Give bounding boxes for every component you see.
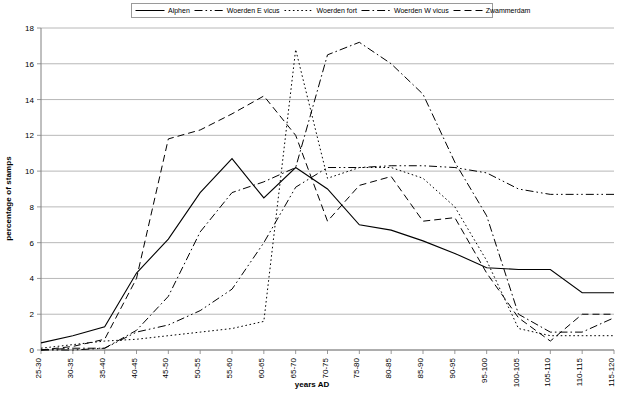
x-tick-label: 50-55 <box>193 357 202 378</box>
x-tick-label: 55-60 <box>225 357 234 378</box>
x-tick-label: 30-35 <box>66 357 75 378</box>
x-tick-label: 90-95 <box>448 357 457 378</box>
x-tick-label: 65-70 <box>289 357 298 378</box>
y-tick-label: 8 <box>30 203 35 212</box>
y-tick-label: 12 <box>25 131 34 140</box>
x-tick-label: 75-80 <box>352 357 361 378</box>
y-tick-label: 0 <box>30 346 35 355</box>
x-axis-title: years AD <box>0 380 624 389</box>
x-tick-label: 25-30 <box>34 357 43 378</box>
x-tick-label: 80-85 <box>384 357 393 378</box>
x-tick-label: 35-40 <box>98 357 107 378</box>
x-tick-label: 40-45 <box>130 357 139 378</box>
y-tick-label: 16 <box>25 60 34 69</box>
y-tick-label: 10 <box>25 167 34 176</box>
x-tick-label: 70-75 <box>321 357 330 378</box>
y-tick-label: 2 <box>30 310 35 319</box>
y-tick-label: 6 <box>30 239 35 248</box>
chart-container: AlphenWoerden E vicusWoerden fortWoerden… <box>0 0 624 396</box>
x-tick-label: 45-50 <box>161 357 170 378</box>
y-tick-label: 18 <box>25 24 34 33</box>
y-tick-label: 14 <box>25 96 34 105</box>
y-tick-label: 4 <box>30 274 35 283</box>
plot-area: 02468101214161825-3030-3535-4040-4545-50… <box>0 0 624 396</box>
x-tick-label: 85-90 <box>416 357 425 378</box>
x-tick-label: 60-65 <box>257 357 266 378</box>
plot-svg: 02468101214161825-3030-3535-4040-4545-50… <box>0 0 624 396</box>
